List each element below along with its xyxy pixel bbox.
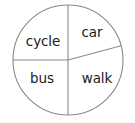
pie-label-walk: walk — [82, 72, 112, 86]
spinner-diagram: cycle car bus walk — [0, 0, 135, 123]
pie-label-bus: bus — [30, 72, 54, 86]
pie-label-car: car — [82, 26, 103, 40]
pie-chart-svg — [0, 0, 135, 123]
pie-label-cycle: cycle — [26, 35, 60, 49]
pie-slice-bus[interactable] — [13, 60, 68, 115]
